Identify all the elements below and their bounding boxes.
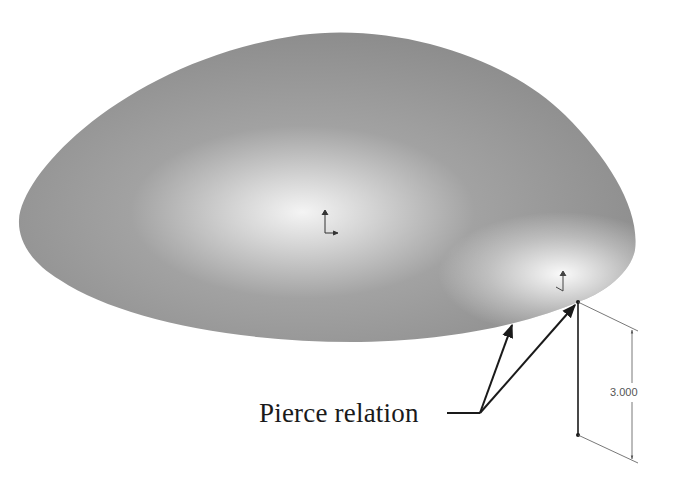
dome-surface <box>19 32 636 342</box>
pierce-relation-label: Pierce relation <box>259 398 419 429</box>
dimension-value[interactable]: 3.000 <box>609 386 639 398</box>
height-dimension <box>576 300 638 463</box>
